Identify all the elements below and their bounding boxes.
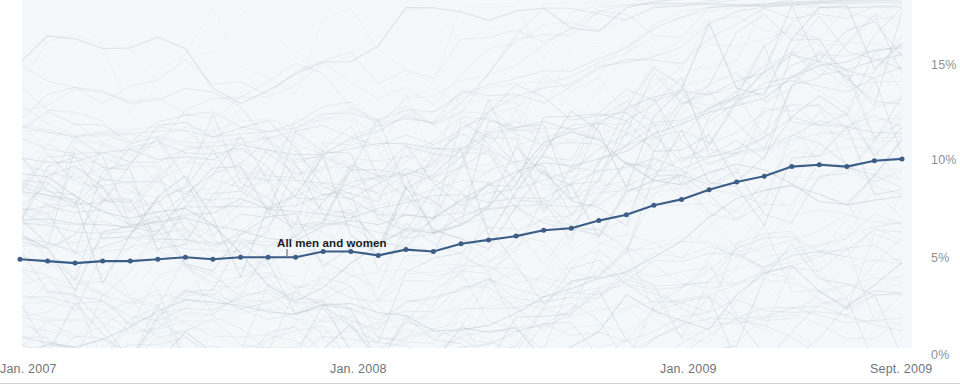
series-annotation-label: All men and women	[277, 237, 387, 249]
y-axis-tick-10: 10%	[931, 153, 957, 167]
y-axis-tick-0: 0%	[931, 348, 949, 362]
plot-area-panel	[22, 0, 912, 348]
chart-container: All men and women 15% 10% 5% 0% Jan. 200…	[0, 0, 960, 390]
x-axis-tick-jan-2008: Jan. 2008	[330, 362, 387, 376]
x-axis-tick-sept-2009: Sept. 2009	[870, 362, 932, 376]
y-axis-tick-15: 15%	[931, 58, 957, 72]
bottom-divider	[0, 383, 960, 384]
x-axis-tick-jan-2007: Jan. 2007	[0, 362, 57, 376]
x-axis-tick-jan-2009: Jan. 2009	[660, 362, 717, 376]
y-axis-tick-5: 5%	[931, 251, 949, 265]
